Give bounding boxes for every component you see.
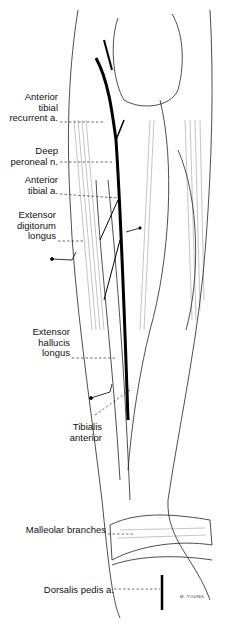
label-extensor-digitorum-longus: Extensor digitorum longus [2,210,56,242]
label-tibialis-anterior: Tibialis anterior [2,422,102,443]
label-deep-peroneal-nerve: Deep peroneal n. [2,146,58,167]
label-extensor-hallucis-longus: Extensor hallucis longus [2,327,70,359]
label-anterior-tibial-recurrent-artery: Anterior tibial recurrent a. [2,92,58,124]
label-malleolar-branches: Malleolar branches [2,525,106,536]
artist-signature: M. YOUNG [180,594,204,599]
label-dorsalis-pedis-artery: Dorsalis pedis a. [2,585,114,596]
label-anterior-tibial-artery: Anterior tibial a. [2,175,58,196]
